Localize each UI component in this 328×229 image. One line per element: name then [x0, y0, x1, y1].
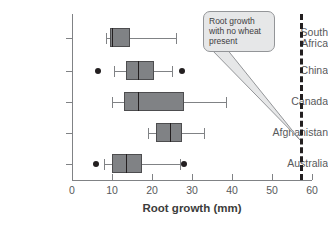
median-line-afghanistan — [170, 123, 171, 142]
x-tick-label-0: 0 — [60, 184, 84, 196]
x-tick-0 — [72, 174, 73, 180]
outlier-point-australia-1 — [93, 161, 99, 167]
y-axis-line — [72, 14, 73, 180]
callout-pointer-icon — [210, 48, 320, 143]
outlier-point-australia-2 — [181, 161, 187, 167]
y-tick-china — [66, 71, 72, 72]
whisker-cap-low-canada — [112, 97, 113, 108]
box-iqr-canada — [124, 92, 184, 111]
x-tick-30 — [192, 174, 193, 180]
whisker-cap-low-china — [114, 66, 115, 77]
box-iqr-south-africa — [110, 28, 130, 47]
box-iqr-afghanistan — [156, 123, 182, 142]
whisker-cap-high-china — [172, 66, 173, 77]
box-iqr-australia — [112, 154, 142, 173]
box-iqr-china — [126, 61, 154, 80]
x-tick-10 — [112, 174, 113, 180]
callout-line-2: with no wheat — [209, 26, 269, 36]
median-line-south-africa — [112, 28, 113, 47]
x-tick-50 — [272, 174, 273, 180]
y-tick-afghanistan — [66, 133, 72, 134]
whisker-cap-low-australia — [104, 159, 105, 170]
x-axis-title: Root growth (mm) — [72, 202, 312, 214]
whisker-cap-low-south-africa — [106, 33, 107, 44]
x-tick-40 — [232, 174, 233, 180]
outlier-point-china-2 — [179, 68, 185, 74]
y-tick-south-africa — [66, 38, 72, 39]
x-tick-label-30: 30 — [180, 184, 204, 196]
whisker-cap-high-afghanistan — [204, 128, 205, 139]
outlier-point-china-1 — [95, 68, 101, 74]
y-label-australia: Australia — [262, 158, 328, 170]
x-tick-label-50: 50 — [260, 184, 284, 196]
x-tick-20 — [152, 174, 153, 180]
x-axis-line — [72, 180, 312, 181]
x-tick-60 — [312, 174, 313, 180]
x-tick-label-10: 10 — [100, 184, 124, 196]
callout-line-3: present — [209, 36, 269, 46]
median-line-australia — [126, 154, 127, 173]
annotation-callout: Root growth with no wheat present — [203, 11, 275, 52]
x-tick-label-20: 20 — [140, 184, 164, 196]
box-plot-chart: South AfricaChinaCanadaAfghanistanAustra… — [0, 0, 328, 229]
whisker-cap-low-afghanistan — [148, 128, 149, 139]
x-tick-label-40: 40 — [220, 184, 244, 196]
callout-line-1: Root growth — [209, 16, 269, 26]
y-tick-australia — [66, 164, 72, 165]
median-line-canada — [138, 92, 139, 111]
x-tick-label-60: 60 — [300, 184, 324, 196]
whisker-cap-high-south-africa — [176, 33, 177, 44]
y-tick-canada — [66, 102, 72, 103]
median-line-china — [138, 61, 139, 80]
